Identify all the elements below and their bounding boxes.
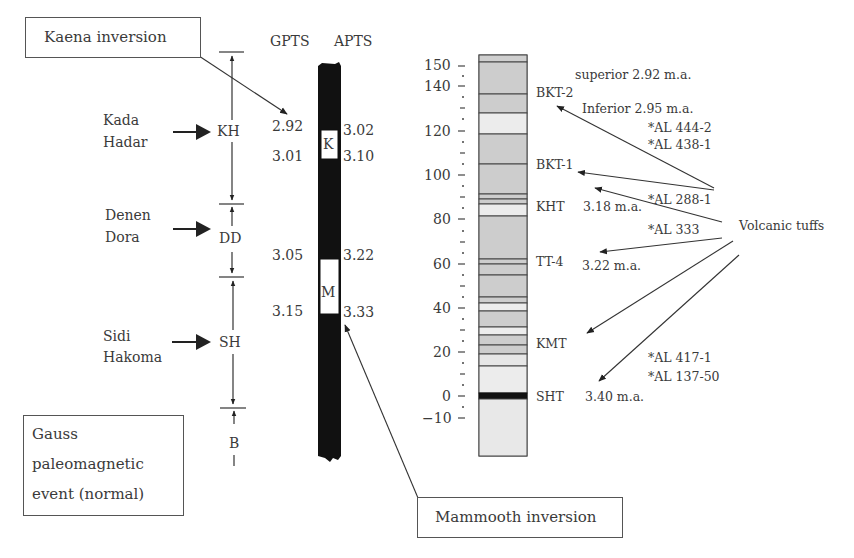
mammoth-event-label: M: [321, 284, 335, 300]
tuff-sht: SHT: [536, 389, 564, 405]
tuff-tt4-age: 3.22 m.a.: [582, 258, 641, 274]
annotation-al438: *AL 438-1: [648, 137, 712, 153]
member-scale: [219, 52, 246, 466]
apts-kaena-top: 3.02: [343, 122, 374, 138]
tuff-kht: KHT: [536, 199, 565, 215]
gpts-header: GPTS: [270, 33, 310, 49]
tuff-bkt1: BKT-1: [536, 157, 573, 173]
gpts-mammoth-top: 3.05: [272, 247, 303, 263]
gauss-line-1: Gauss: [32, 426, 78, 442]
polarity-column: [318, 62, 341, 462]
member-abbr-kh: KH: [217, 123, 240, 139]
member-name-hadar: Hadar: [103, 134, 148, 150]
gauss-event-callout: Gauss paleomagnetic event (normal): [23, 415, 184, 516]
tuff-sht-age: 3.40 m.a.: [585, 389, 644, 405]
member-name-dora: Dora: [105, 229, 140, 245]
kaena-inversion-callout: Kaena inversion: [25, 17, 201, 58]
kaena-inversion-label: Kaena inversion: [44, 29, 167, 45]
tuff-kht-age: 3.18 m.a.: [583, 199, 642, 215]
kaena-leader: [199, 56, 287, 114]
scale-20: 20: [433, 344, 451, 360]
annotation-al417: *AL 417-1: [648, 350, 712, 366]
gpts-kaena-bottom: 3.01: [272, 148, 303, 164]
gauss-line-2: paleomagnetic: [32, 456, 144, 472]
member-name-denen: Denen: [105, 207, 151, 223]
gpts-mammoth-bottom: 3.15: [272, 303, 303, 319]
mammoth-inversion-label: Mammooth inversion: [435, 509, 596, 525]
tuff-kmt: KMT: [536, 336, 566, 352]
member-name-hakoma: Hakoma: [103, 349, 162, 365]
scale-minus10: −10: [422, 410, 452, 426]
gpts-kaena-top: 2.92: [272, 118, 303, 134]
member-abbr-sh: SH: [219, 334, 241, 350]
member-abbr-b: B: [229, 435, 239, 451]
tuff-bkt2: BKT-2: [536, 85, 573, 101]
apts-kaena-bottom: 3.10: [343, 148, 374, 164]
scale-140: 140: [424, 78, 451, 94]
kaena-event-label: K: [323, 136, 333, 152]
annotation-al288: *AL 288-1: [648, 192, 712, 208]
stratigraphic-column: [479, 55, 527, 456]
mammoth-leader: [345, 325, 418, 498]
annotation-volcanic-tuffs: Volcanic tuffs: [739, 218, 824, 234]
scale-0: 0: [442, 388, 451, 404]
scale-80: 80: [433, 211, 451, 227]
annotation-inferior: Inferior 2.95 m.a.: [582, 101, 694, 117]
tuff-tt4: TT-4: [536, 254, 563, 270]
gauss-line-3: event (normal): [32, 486, 144, 502]
annotation-al137: *AL 137-50: [648, 369, 720, 385]
apts-header: APTS: [334, 33, 372, 49]
scale-150: 150: [424, 57, 451, 73]
annotation-al333: *AL 333: [648, 222, 699, 238]
scale-120: 120: [424, 123, 451, 139]
scale-60: 60: [433, 256, 451, 272]
annotation-al444: *AL 444-2: [648, 120, 712, 136]
apts-mammoth-bottom: 3.33: [343, 304, 374, 320]
member-name-sidi: Sidi: [103, 328, 131, 344]
member-abbr-dd: DD: [219, 230, 241, 246]
annotation-superior: superior 2.92 m.a.: [575, 67, 691, 83]
apts-mammoth-top: 3.22: [343, 247, 374, 263]
mammoth-inversion-callout: Mammooth inversion: [417, 497, 623, 538]
member-name-kada: Kada: [103, 112, 139, 128]
depth-scale-ticks: [458, 66, 465, 418]
scale-100: 100: [424, 167, 451, 183]
scale-40: 40: [433, 300, 451, 316]
member-arrows: [172, 124, 211, 350]
